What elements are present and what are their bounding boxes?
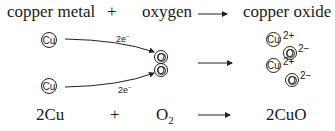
word-reactant-oxygen: oxygen	[142, 2, 192, 22]
oxide-ion-top-charge: 2−	[298, 43, 309, 54]
copper-atom-top: Cu	[41, 32, 57, 48]
word-reactant-copper-metal: copper metal	[7, 2, 95, 22]
copper-ion-top-charge: 2+	[283, 30, 294, 41]
oxygen-atom-bottom: O	[154, 63, 168, 77]
copper-ion-bottom-charge: 2+	[283, 56, 294, 67]
oxide-ion-bottom-charge: 2−	[300, 70, 311, 81]
copper-ion-top: Cu	[266, 32, 281, 47]
copper-ion-bottom: Cu	[266, 58, 281, 73]
oxide-ion-bottom: O	[285, 73, 299, 87]
copper-atom-bottom: Cu	[41, 78, 57, 94]
electron-label-bottom: 2e−	[118, 84, 132, 95]
symbol-reactant-2cu: 2Cu	[36, 105, 64, 125]
word-plus-sign: +	[107, 2, 117, 22]
electron-transfer-arrow-bottom	[65, 73, 154, 87]
electron-label-top: 2e−	[116, 33, 130, 44]
symbol-plus-sign: +	[110, 105, 120, 125]
symbol-product-2cuo: 2CuO	[266, 105, 307, 125]
oxygen-atom-top: O	[154, 50, 168, 64]
electron-transfer-arrow-top	[65, 39, 154, 52]
word-product-copper-oxide: copper oxide	[243, 2, 331, 22]
symbol-reactant-o2: O2	[156, 105, 174, 125]
